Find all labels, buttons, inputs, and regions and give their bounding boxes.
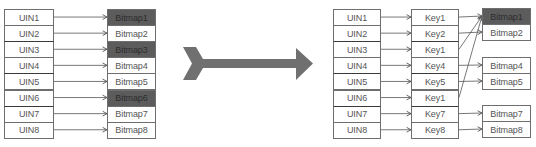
left-mapping-arrow xyxy=(54,127,107,132)
left-mapping-arrow xyxy=(54,111,107,116)
right-key-box-label: Key7 xyxy=(425,109,445,119)
left-uin-box: UIN8 xyxy=(4,122,54,139)
left-mapping-arrow xyxy=(54,15,107,20)
left-uin-box: UIN4 xyxy=(4,57,54,74)
left-uin-box: UIN1 xyxy=(4,9,54,26)
right-key-box-label: Key4 xyxy=(425,61,445,71)
right-uin-box: UIN5 xyxy=(333,73,381,90)
right-uin-box-label: UIN4 xyxy=(347,61,367,71)
left-bitmap-box: Bitmap6 xyxy=(107,90,156,107)
right-uin-box: UIN2 xyxy=(333,25,381,42)
right-uin-box-label: UIN1 xyxy=(347,13,367,23)
right-uin-box-label: UIN3 xyxy=(347,45,367,55)
left-mapping-arrow xyxy=(54,31,107,36)
left-uin-box: UIN6 xyxy=(4,90,54,107)
left-uin-box: UIN2 xyxy=(4,25,54,42)
right-bitmap-box: Bitmap8 xyxy=(482,121,531,138)
transform-arrow-icon xyxy=(183,47,313,80)
left-mapping-arrow xyxy=(54,47,107,52)
right-key-box: Key5 xyxy=(411,73,459,90)
right-key-box: Key2 xyxy=(411,25,459,42)
left-bitmap-box: Bitmap4 xyxy=(107,57,156,74)
uin-to-key-arrow xyxy=(381,47,411,52)
right-uin-box-label: UIN5 xyxy=(347,77,367,87)
right-uin-box-label: UIN8 xyxy=(347,125,367,135)
right-key-box: Key7 xyxy=(411,106,459,123)
uin-to-key-arrow xyxy=(381,127,411,132)
right-bitmap-box: Bitmap5 xyxy=(482,73,531,90)
diagram-canvas: UIN1UIN2UIN3UIN4UIN5UIN6UIN7UIN8Bitmap1B… xyxy=(0,0,536,147)
left-uin-box-label: UIN5 xyxy=(19,77,39,87)
right-key-box: Key4 xyxy=(411,57,459,74)
left-bitmap-box: Bitmap8 xyxy=(107,122,156,139)
right-bitmap-box: Bitmap4 xyxy=(482,57,531,74)
right-key-box-label: Key1 xyxy=(425,13,445,23)
key-to-bitmap-arrow xyxy=(459,63,482,68)
right-uin-box-label: UIN7 xyxy=(347,109,367,119)
right-uin-box: UIN7 xyxy=(333,106,381,123)
left-bitmap-box: Bitmap5 xyxy=(107,73,156,90)
right-key-box: Key8 xyxy=(411,122,459,139)
right-key-box-label: Key1 xyxy=(425,93,445,103)
right-uin-box-label: UIN2 xyxy=(347,29,367,39)
uin-to-key-arrow xyxy=(381,95,411,100)
uin-to-key-arrow xyxy=(381,79,411,84)
left-uin-box-label: UIN3 xyxy=(19,45,39,55)
right-bitmap-box: Bitmap2 xyxy=(482,24,531,41)
left-uin-box: UIN3 xyxy=(4,41,54,58)
right-key-box: Key1 xyxy=(411,90,459,107)
right-bitmap-box-label: Bitmap1 xyxy=(490,12,522,22)
right-key-box-label: Key2 xyxy=(425,29,445,39)
left-uin-box-label: UIN8 xyxy=(19,125,39,135)
right-bitmap-box-label: Bitmap7 xyxy=(490,109,522,119)
left-bitmap-box: Bitmap3 xyxy=(107,41,156,58)
key-to-bitmap-arrow xyxy=(459,111,482,116)
left-bitmap-box-label: Bitmap7 xyxy=(115,109,147,119)
left-uin-box: UIN7 xyxy=(4,106,54,123)
right-key-box-label: Key5 xyxy=(425,77,445,87)
uin-to-key-arrow xyxy=(381,63,411,68)
left-mapping-arrow xyxy=(54,95,107,100)
left-uin-box-label: UIN4 xyxy=(19,61,39,71)
right-uin-box: UIN1 xyxy=(333,9,381,26)
right-key-box-label: Key8 xyxy=(425,125,445,135)
right-bitmap-box-label: Bitmap4 xyxy=(490,61,522,71)
right-bitmap-box-label: Bitmap2 xyxy=(490,28,522,38)
left-uin-box: UIN5 xyxy=(4,73,54,90)
right-uin-box: UIN3 xyxy=(333,41,381,58)
right-uin-box: UIN4 xyxy=(333,57,381,74)
right-bitmap-box: Bitmap7 xyxy=(482,105,531,122)
right-key-box: Key1 xyxy=(411,41,459,58)
left-bitmap-box-label: Bitmap2 xyxy=(115,29,147,39)
left-bitmap-box-label: Bitmap8 xyxy=(115,125,147,135)
left-bitmap-box: Bitmap2 xyxy=(107,25,156,42)
right-bitmap-box-label: Bitmap5 xyxy=(490,77,522,87)
right-key-box-label: Key1 xyxy=(425,45,445,55)
key-to-bitmap-arrow xyxy=(459,127,482,132)
left-mapping-arrow xyxy=(54,79,107,84)
left-bitmap-box-label: Bitmap5 xyxy=(115,77,147,87)
right-uin-box-label: UIN6 xyxy=(347,93,367,103)
uin-to-key-arrow xyxy=(381,111,411,116)
right-bitmap-box-label: Bitmap8 xyxy=(490,125,522,135)
right-uin-box: UIN6 xyxy=(333,90,381,107)
uin-to-key-arrow xyxy=(381,15,411,20)
left-bitmap-box: Bitmap1 xyxy=(107,9,156,26)
left-uin-box-label: UIN1 xyxy=(19,13,39,23)
right-bitmap-box: Bitmap1 xyxy=(482,8,531,25)
right-uin-box: UIN8 xyxy=(333,122,381,139)
key-to-bitmap-arrow xyxy=(459,16,483,98)
left-mapping-arrow xyxy=(54,63,107,68)
left-uin-box-label: UIN2 xyxy=(19,29,39,39)
left-uin-box-label: UIN6 xyxy=(19,93,39,103)
left-bitmap-box-label: Bitmap1 xyxy=(115,13,147,23)
left-bitmap-box: Bitmap7 xyxy=(107,106,156,123)
left-uin-box-label: UIN7 xyxy=(19,109,39,119)
left-bitmap-box-label: Bitmap3 xyxy=(115,45,147,55)
key-to-bitmap-arrow xyxy=(459,79,482,84)
left-bitmap-box-label: Bitmap6 xyxy=(115,93,147,103)
uin-to-key-arrow xyxy=(381,31,411,36)
right-key-box: Key1 xyxy=(411,9,459,26)
left-bitmap-box-label: Bitmap4 xyxy=(115,61,147,71)
